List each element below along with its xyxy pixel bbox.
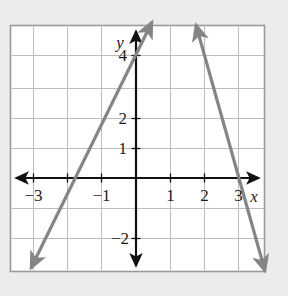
x-tick-label-2: 2 <box>200 186 209 205</box>
x-tick-label-1: 1 <box>166 186 175 205</box>
y-tick-label-1: 1 <box>119 139 128 158</box>
y-axis-name-label: y <box>114 33 124 52</box>
x-tick-label--3: −3 <box>24 186 42 205</box>
x-tick-label--1: −1 <box>92 186 110 205</box>
x-tick-label-3: 3 <box>234 186 243 205</box>
coordinate-graph: −3 −1 1 2 3 4 2 1 −2 y x <box>0 0 288 296</box>
y-tick-label--2: −2 <box>111 229 129 248</box>
y-tick-label-2: 2 <box>119 109 128 128</box>
x-axis-name-label: x <box>249 187 258 206</box>
figure-root: −3 −1 1 2 3 4 2 1 −2 y x <box>0 0 288 296</box>
